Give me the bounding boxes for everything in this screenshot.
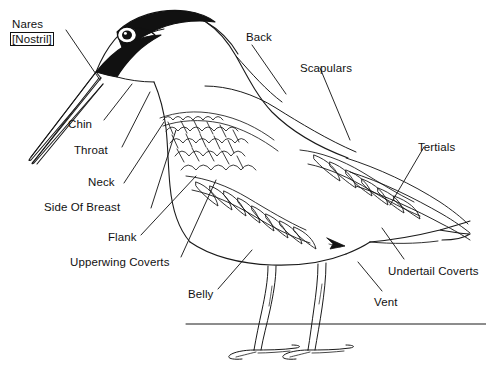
label-tertials: Tertials xyxy=(418,141,455,154)
leader-nares xyxy=(66,30,100,80)
leader-back xyxy=(252,45,286,94)
label-belly: Belly xyxy=(188,288,213,301)
label-back: Back xyxy=(246,31,272,44)
leader-tertials xyxy=(390,147,424,205)
label-throat: Throat xyxy=(74,144,108,157)
vent-marker-icon xyxy=(327,238,345,249)
label-flank: Flank xyxy=(108,231,137,244)
bird-anatomy-diagram: Nares [Nostril] Chin Throat Neck Side Of… xyxy=(0,0,486,367)
leader-flank xyxy=(141,176,196,235)
label-chin: Chin xyxy=(68,118,92,131)
label-nares: Nares xyxy=(12,18,54,31)
label-upperwing-coverts: Upperwing Coverts xyxy=(70,256,170,269)
label-vent: Vent xyxy=(374,296,397,309)
leader-belly xyxy=(218,250,252,289)
leader-vent xyxy=(358,262,382,291)
legs xyxy=(229,263,354,359)
head-shape xyxy=(96,10,238,82)
upperwing-coverts-feathers xyxy=(186,176,316,249)
leader-chin xyxy=(104,84,132,120)
leader-scapulars xyxy=(320,68,350,140)
leader-throat xyxy=(122,92,150,147)
label-scapulars: Scapulars xyxy=(300,62,352,75)
leader-side-of-breast xyxy=(151,130,176,208)
label-neck: Neck xyxy=(88,176,115,189)
label-undertail-coverts: Undertail Coverts xyxy=(388,265,479,278)
label-nostril: [Nostril] xyxy=(10,32,54,46)
bird-illustration xyxy=(0,0,486,367)
label-nares-group: Nares [Nostril] xyxy=(10,18,54,46)
label-side-of-breast: Side Of Breast xyxy=(44,201,120,214)
scapulars-feathers xyxy=(160,112,278,170)
